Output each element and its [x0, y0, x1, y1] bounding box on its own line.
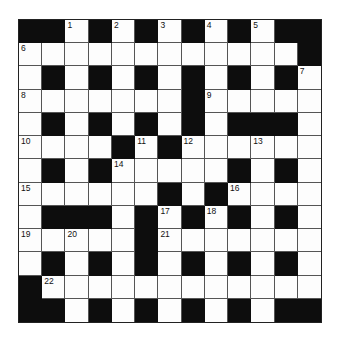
- answer-cell[interactable]: 6: [19, 43, 42, 66]
- answer-cell[interactable]: [298, 136, 321, 159]
- answer-cell[interactable]: [251, 206, 274, 229]
- answer-cell[interactable]: [228, 136, 251, 159]
- answer-cell[interactable]: [158, 159, 181, 182]
- answer-cell[interactable]: [112, 90, 135, 113]
- answer-cell[interactable]: [112, 299, 135, 322]
- answer-cell[interactable]: [65, 43, 88, 66]
- answer-cell[interactable]: [275, 276, 298, 299]
- answer-cell[interactable]: 18: [205, 206, 228, 229]
- answer-cell[interactable]: 1: [65, 20, 88, 43]
- answer-cell[interactable]: [182, 43, 205, 66]
- answer-cell[interactable]: 9: [205, 90, 228, 113]
- answer-cell[interactable]: [135, 183, 158, 206]
- answer-cell[interactable]: [135, 276, 158, 299]
- answer-cell[interactable]: [298, 252, 321, 275]
- answer-cell[interactable]: 7: [298, 66, 321, 89]
- answer-cell[interactable]: [205, 229, 228, 252]
- answer-cell[interactable]: [228, 276, 251, 299]
- answer-cell[interactable]: 21: [158, 229, 181, 252]
- answer-cell[interactable]: [42, 229, 65, 252]
- answer-cell[interactable]: [251, 299, 274, 322]
- answer-cell[interactable]: [65, 299, 88, 322]
- answer-cell[interactable]: 15: [19, 183, 42, 206]
- answer-cell[interactable]: [19, 252, 42, 275]
- answer-cell[interactable]: [65, 252, 88, 275]
- answer-cell[interactable]: [42, 136, 65, 159]
- answer-cell[interactable]: [158, 252, 181, 275]
- answer-cell[interactable]: [205, 299, 228, 322]
- answer-cell[interactable]: [135, 43, 158, 66]
- answer-cell[interactable]: [65, 90, 88, 113]
- answer-cell[interactable]: [89, 276, 112, 299]
- answer-cell[interactable]: [228, 43, 251, 66]
- answer-cell[interactable]: 16: [228, 183, 251, 206]
- answer-cell[interactable]: 14: [112, 159, 135, 182]
- answer-cell[interactable]: 22: [42, 276, 65, 299]
- answer-cell[interactable]: [298, 113, 321, 136]
- answer-cell[interactable]: [182, 159, 205, 182]
- answer-cell[interactable]: [112, 113, 135, 136]
- answer-cell[interactable]: [298, 229, 321, 252]
- answer-cell[interactable]: [251, 252, 274, 275]
- answer-cell[interactable]: [205, 66, 228, 89]
- answer-cell[interactable]: [298, 183, 321, 206]
- answer-cell[interactable]: 19: [19, 229, 42, 252]
- answer-cell[interactable]: [275, 90, 298, 113]
- answer-cell[interactable]: [205, 252, 228, 275]
- answer-cell[interactable]: 2: [112, 20, 135, 43]
- answer-cell[interactable]: [205, 159, 228, 182]
- answer-cell[interactable]: [251, 66, 274, 89]
- answer-cell[interactable]: [65, 183, 88, 206]
- answer-cell[interactable]: [112, 276, 135, 299]
- answer-cell[interactable]: [298, 206, 321, 229]
- answer-cell[interactable]: [42, 90, 65, 113]
- answer-cell[interactable]: 17: [158, 206, 181, 229]
- answer-cell[interactable]: [251, 159, 274, 182]
- answer-cell[interactable]: [158, 66, 181, 89]
- answer-cell[interactable]: [158, 113, 181, 136]
- answer-cell[interactable]: [65, 276, 88, 299]
- answer-cell[interactable]: [298, 276, 321, 299]
- answer-cell[interactable]: [205, 276, 228, 299]
- answer-cell[interactable]: [112, 252, 135, 275]
- answer-cell[interactable]: [158, 43, 181, 66]
- answer-cell[interactable]: 10: [19, 136, 42, 159]
- answer-cell[interactable]: [89, 136, 112, 159]
- answer-cell[interactable]: 12: [182, 136, 205, 159]
- answer-cell[interactable]: 4: [205, 20, 228, 43]
- answer-cell[interactable]: [112, 206, 135, 229]
- answer-cell[interactable]: [65, 159, 88, 182]
- answer-cell[interactable]: [19, 206, 42, 229]
- answer-cell[interactable]: 20: [65, 229, 88, 252]
- answer-cell[interactable]: [275, 229, 298, 252]
- answer-cell[interactable]: 3: [158, 20, 181, 43]
- answer-cell[interactable]: [19, 66, 42, 89]
- answer-cell[interactable]: [112, 183, 135, 206]
- answer-cell[interactable]: [275, 183, 298, 206]
- answer-cell[interactable]: [205, 43, 228, 66]
- answer-cell[interactable]: [298, 159, 321, 182]
- answer-cell[interactable]: [89, 90, 112, 113]
- answer-cell[interactable]: [65, 136, 88, 159]
- answer-cell[interactable]: [158, 276, 181, 299]
- answer-cell[interactable]: [228, 229, 251, 252]
- answer-cell[interactable]: [275, 136, 298, 159]
- answer-cell[interactable]: [65, 66, 88, 89]
- answer-cell[interactable]: [112, 43, 135, 66]
- answer-cell[interactable]: [42, 43, 65, 66]
- answer-cell[interactable]: [251, 90, 274, 113]
- answer-cell[interactable]: [158, 299, 181, 322]
- answer-cell[interactable]: [182, 183, 205, 206]
- answer-cell[interactable]: [89, 183, 112, 206]
- answer-cell[interactable]: [251, 183, 274, 206]
- answer-cell[interactable]: 8: [19, 90, 42, 113]
- answer-cell[interactable]: [298, 90, 321, 113]
- answer-cell[interactable]: [228, 90, 251, 113]
- answer-cell[interactable]: [182, 229, 205, 252]
- answer-cell[interactable]: [158, 90, 181, 113]
- answer-cell[interactable]: [205, 136, 228, 159]
- answer-cell[interactable]: [182, 276, 205, 299]
- answer-cell[interactable]: [135, 159, 158, 182]
- answer-cell[interactable]: [89, 43, 112, 66]
- answer-cell[interactable]: [112, 229, 135, 252]
